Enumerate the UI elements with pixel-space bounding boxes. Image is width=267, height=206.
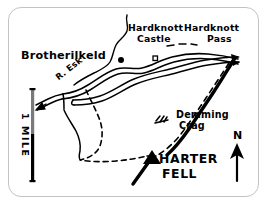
- label-demming-crag: Demming Crag: [176, 110, 229, 131]
- hardknott-castle-marker: [153, 56, 158, 61]
- label-hardknott-pass-line1: Hardknott: [184, 22, 239, 33]
- label-hardknott-castle-line2: Castle: [137, 34, 183, 44]
- label-hardknott-castle-line1: Hardknott: [128, 22, 183, 33]
- crag-hatching-icon: [155, 116, 168, 123]
- footpath-west-spur-dashed: [64, 110, 80, 160]
- label-harter-fell-line2: FELL: [162, 167, 218, 180]
- label-demming-crag-line2: Crag: [179, 121, 229, 131]
- label-north: N: [233, 130, 243, 142]
- hardknott-pass-road: [72, 57, 239, 105]
- label-hardknott-castle: Hardknott Castle: [128, 23, 183, 44]
- label-harter-fell: HARTER FELL: [159, 152, 218, 180]
- north-arrow-icon: [230, 143, 244, 181]
- label-scale-bar-distance: 1 MILE: [20, 113, 30, 158]
- castle-label-leader-dashes: [167, 44, 197, 46]
- sketch-map-figure: Brotherilkeld R. Esk Hardknott Castle Ha…: [0, 0, 267, 206]
- label-hardknott-pass: Hardknott Pass: [184, 23, 239, 44]
- label-brotherilkeld: Brotherilkeld: [21, 50, 106, 62]
- harter-fell-south-ridge: [133, 163, 148, 184]
- label-harter-fell-line1: HARTER: [159, 151, 218, 166]
- label-demming-crag-line1: Demming: [176, 109, 229, 120]
- label-hardknott-pass-line2: Pass: [207, 34, 239, 44]
- footpath-loop-dashed: [80, 90, 147, 162]
- brotherilkeld-marker-dot: [118, 57, 124, 63]
